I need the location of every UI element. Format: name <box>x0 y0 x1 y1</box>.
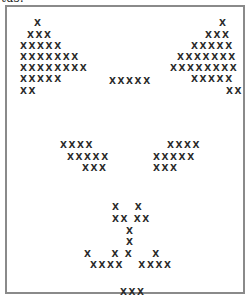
ascii-art-row: XXXXX <box>67 152 110 162</box>
ascii-art-row: XXXXXXXX <box>170 63 238 73</box>
ascii-art-row: XX <box>20 86 37 96</box>
clipped-caption-text: tus: <box>1 0 24 4</box>
ascii-art-row: X X X X <box>84 249 161 259</box>
ascii-art-row: XXX <box>27 30 53 40</box>
ascii-art-row: XXX <box>205 30 231 40</box>
ascii-art-frame: XXXXXXXXXXXXXXXXXXXXXXXXXXXXXXXXXXXXXXXX… <box>5 5 245 294</box>
ascii-art-row: XXX <box>153 163 179 173</box>
ascii-art-row: XXXXX <box>20 74 63 84</box>
ascii-art-row: X <box>34 18 43 28</box>
ascii-art-row: XXXX <box>60 140 94 150</box>
ascii-art-row: XXXXXXX <box>20 52 80 62</box>
ascii-art-row: X <box>126 237 135 247</box>
ascii-art-row: X X <box>112 202 143 212</box>
ascii-art-row: XXX <box>82 163 108 173</box>
ascii-art-row: X <box>219 18 228 28</box>
ascii-art-row: XXX <box>120 287 146 297</box>
ascii-art-row: XX <box>226 86 243 96</box>
ascii-art-row: XXXXX <box>191 41 234 51</box>
ascii-art-row: XXXXX <box>109 76 152 86</box>
ascii-art-row: XXXX <box>167 140 201 150</box>
ascii-art-row: XXXXX <box>153 152 196 162</box>
ascii-art-row: XXXXX <box>20 41 63 51</box>
ascii-art-row: XXXXX <box>191 74 234 84</box>
ascii-art-row: XX XX <box>112 214 151 224</box>
ascii-art-row: XXXXXXX <box>177 52 237 62</box>
ascii-art-row: X <box>126 226 135 236</box>
ascii-art-row: XXXXXXXX <box>20 63 88 73</box>
ascii-art-row: XXXX XXXX <box>90 260 173 270</box>
